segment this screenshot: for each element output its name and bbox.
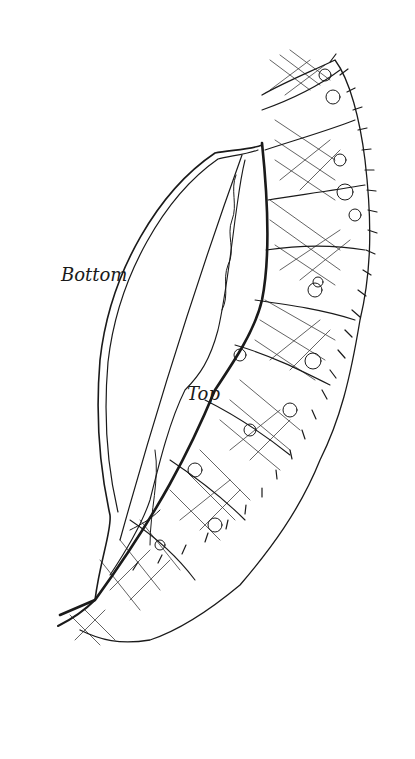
lateral-veins [130,70,365,580]
leaf-drawing [0,0,415,759]
serration-teeth [133,54,377,570]
leaf-inner-vein [120,155,242,540]
label-bottom: Bottom [61,264,127,285]
label-top: Top [187,383,220,404]
crosshatch-damage [70,50,350,645]
leaf-illustration: Bottom Top [0,0,415,759]
leaf-bottom-outline [95,145,262,600]
